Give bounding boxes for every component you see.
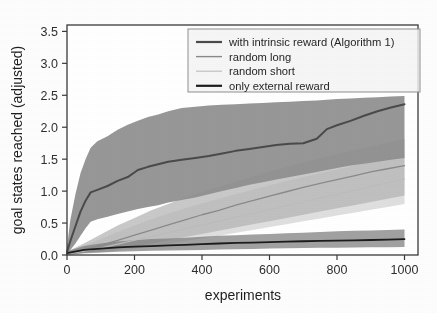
legend-label: with intrinsic reward (Algorithm 1) [228,36,395,48]
y-tick-label: 2.0 [41,121,58,135]
y-axis-title: goal states reached (adjusted) [9,46,25,234]
x-axis: 02004006008001000 [64,255,419,277]
legend-label: only external reward [229,80,330,92]
y-tick-label: 2.5 [41,89,58,103]
goal-states-line-chart: 0.00.51.01.52.02.53.03.5 020040060080010… [0,0,437,313]
legend-label: random short [229,65,296,77]
x-tick-label: 600 [259,263,280,277]
y-tick-label: 0.5 [41,217,58,231]
y-axis: 0.00.51.01.52.02.53.03.5 [41,25,67,263]
y-tick-label: 1.5 [41,153,58,167]
x-tick-label: 800 [327,263,348,277]
legend-label: random long [229,51,291,63]
chart-legend: with intrinsic reward (Algorithm 1)rando… [188,29,420,92]
y-tick-label: 3.0 [41,57,58,71]
y-tick-label: 0.0 [41,249,58,263]
x-tick-label: 400 [192,263,213,277]
x-tick-label: 1000 [391,263,419,277]
x-tick-label: 0 [64,263,71,277]
x-axis-title: experiments [205,287,281,303]
chart-page: 0.00.51.01.52.02.53.03.5 020040060080010… [0,0,437,313]
y-tick-label: 3.5 [41,25,58,39]
x-tick-label: 200 [124,263,145,277]
y-tick-label: 1.0 [41,185,58,199]
